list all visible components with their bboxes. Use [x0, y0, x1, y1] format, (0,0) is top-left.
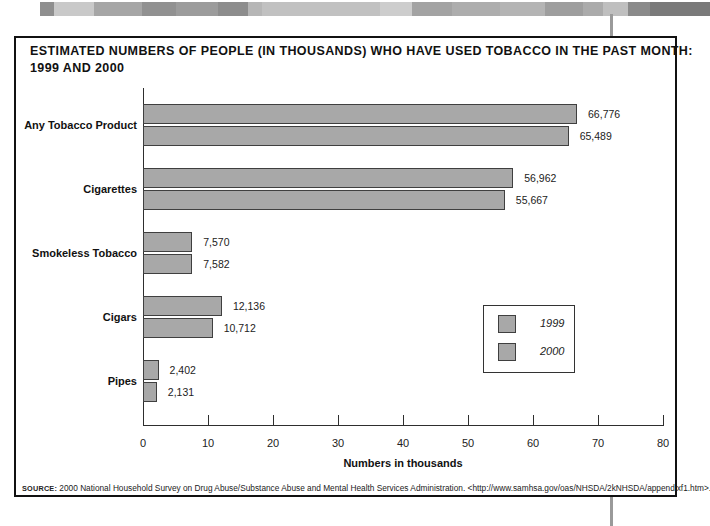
bar-value-label: 12,136 [233, 300, 265, 312]
x-axis-tick-label: 30 [323, 437, 353, 449]
x-axis-tick-label: 70 [583, 437, 613, 449]
x-axis-tick [468, 415, 469, 425]
x-axis-tick [273, 415, 274, 425]
x-axis-tick-label: 10 [193, 437, 223, 449]
category-label: Smokeless Tobacco [18, 247, 137, 260]
category-label: Cigarettes [18, 183, 137, 196]
x-axis-title: Numbers in thousands [303, 457, 503, 469]
source-label: SOURCE: [22, 484, 57, 493]
banner-segment [54, 2, 94, 16]
bar-2000-pipes [143, 382, 157, 402]
banner-segment [412, 2, 452, 16]
bar-2000-cigars [143, 318, 213, 338]
category-label: Any Tobacco Product [18, 119, 137, 132]
bar-2000-cigarettes [143, 190, 505, 210]
legend-label-1999: 1999 [540, 317, 564, 329]
x-axis-tick [403, 415, 404, 425]
bar-value-label: 2,402 [170, 364, 196, 376]
bar-2000-any-tobacco-product [143, 126, 569, 146]
legend-swatch-2000 [498, 343, 516, 361]
banner-segment [545, 2, 583, 16]
chart-title-line1: ESTIMATED NUMBERS OF PEOPLE (IN THOUSAND… [30, 44, 693, 58]
banner-segment [452, 2, 500, 16]
source-text: 2000 National Household Survey on Drug A… [57, 483, 710, 493]
bar-value-label: 7,582 [203, 258, 229, 270]
x-axis-tick [208, 415, 209, 425]
banner-segment [500, 2, 545, 16]
bar-value-label: 65,489 [580, 130, 612, 142]
banner-segment [628, 2, 650, 16]
banner-segment [142, 2, 176, 16]
bar-value-label: 66,776 [588, 108, 620, 120]
bar-2000-smokeless-tobacco [143, 254, 192, 274]
bar-value-label: 2,131 [168, 386, 194, 398]
x-axis-tick-label: 0 [128, 437, 158, 449]
x-axis-tick [533, 415, 534, 425]
x-axis-tick [143, 415, 144, 425]
bar-value-label: 56,962 [524, 172, 556, 184]
banner-segment [380, 2, 412, 16]
x-axis-tick-label: 40 [388, 437, 418, 449]
source-note: SOURCE: 2000 National Household Survey o… [22, 483, 670, 493]
x-axis-tick [338, 415, 339, 425]
banner-segment [40, 2, 54, 16]
bar-1999-any-tobacco-product [143, 104, 577, 124]
banner-segment [650, 2, 710, 16]
x-axis-tick-label: 50 [453, 437, 483, 449]
x-axis-tick-label: 60 [518, 437, 548, 449]
bar-1999-smokeless-tobacco [143, 232, 192, 252]
category-label: Pipes [18, 375, 137, 388]
chart-title-line2: 1999 AND 2000 [30, 61, 124, 75]
x-axis-tick [663, 415, 664, 425]
bar-1999-cigars [143, 296, 222, 316]
bar-1999-pipes [143, 360, 159, 380]
x-axis-tick-label: 20 [258, 437, 288, 449]
banner-segment [603, 2, 628, 16]
banner-segment [583, 2, 603, 16]
x-axis-tick-label: 80 [648, 437, 678, 449]
bar-value-label: 10,712 [224, 322, 256, 334]
category-label: Cigars [18, 311, 137, 324]
bar-value-label: 55,667 [516, 194, 548, 206]
x-axis-tick [598, 415, 599, 425]
banner-segment [218, 2, 248, 16]
banner-segment [262, 2, 380, 16]
legend-swatch-1999 [498, 315, 516, 333]
bar-value-label: 7,570 [203, 236, 229, 248]
banner-segment [248, 2, 262, 16]
banner-segment [176, 2, 218, 16]
banner-segment [94, 2, 142, 16]
x-axis-line [143, 425, 664, 426]
legend-box: 19992000 [483, 305, 575, 373]
page: ESTIMATED NUMBERS OF PEOPLE (IN THOUSAND… [0, 0, 710, 526]
bar-1999-cigarettes [143, 168, 513, 188]
legend-label-2000: 2000 [540, 345, 564, 357]
